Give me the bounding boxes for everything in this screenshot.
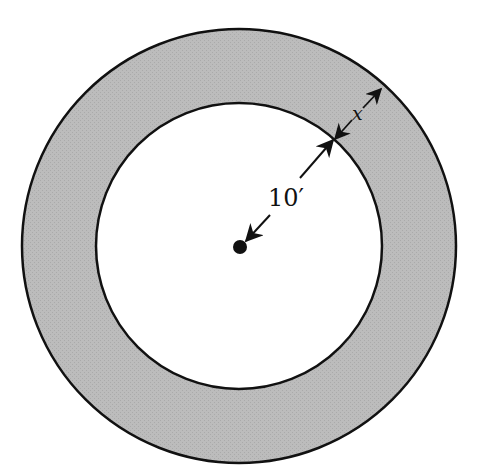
annulus-diagram: 10′ x bbox=[0, 0, 481, 474]
radius-label: 10′ bbox=[268, 184, 304, 212]
center-dot bbox=[233, 240, 247, 254]
width-label: x bbox=[352, 102, 363, 124]
